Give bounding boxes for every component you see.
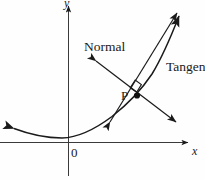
normal-label: Normal bbox=[84, 40, 125, 54]
curve bbox=[14, 16, 179, 138]
y-axis-label: y bbox=[64, 0, 69, 9]
figure-canvas bbox=[0, 0, 205, 180]
point-p-label: P bbox=[121, 89, 128, 102]
tangent-label: Tangent bbox=[166, 60, 205, 74]
origin-label: 0 bbox=[71, 146, 78, 159]
x-axis-label: x bbox=[192, 145, 197, 157]
point-p-dot bbox=[134, 92, 140, 98]
math-figure: Normal Tangent P 0 x y bbox=[0, 0, 205, 180]
